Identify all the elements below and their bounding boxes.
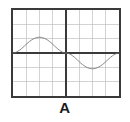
- plot-area: [13, 10, 119, 96]
- sine-curve: [13, 10, 119, 96]
- figure-panel: A: [0, 0, 130, 122]
- figure-caption-label: A: [0, 99, 130, 117]
- plot-frame: [11, 8, 121, 98]
